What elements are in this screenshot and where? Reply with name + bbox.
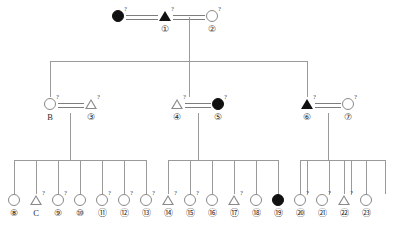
sib-drop-20 [300, 160, 301, 194]
sib-drop-19 [278, 160, 279, 194]
symbol-open-circle-icon [206, 10, 218, 22]
symbol-open-triangle-icon [338, 195, 350, 205]
symbol-open-circle-icon [342, 98, 354, 110]
sib-drop-14 [168, 160, 169, 194]
individual-label: ⑤ [202, 112, 234, 122]
symbol-open-circle-icon [316, 194, 328, 206]
superscript-marker: ? [183, 94, 186, 101]
sibship-descent-middle [198, 113, 199, 160]
individual-label: ④ [161, 112, 193, 122]
sib-drop-13 [146, 160, 147, 194]
symbol-open-triangle-icon [162, 195, 174, 205]
individual-label: ② [196, 24, 228, 34]
symbol-open-circle-icon [118, 194, 130, 206]
sibship-descent-right [328, 113, 329, 160]
symbol-filled-circle-icon [212, 98, 224, 110]
symbol-open-circle-icon [44, 98, 56, 110]
superscript-marker: ? [350, 190, 353, 197]
symbol-open-circle-icon [184, 194, 196, 206]
sibship-bar-middle [168, 160, 278, 161]
symbol-open-triangle-icon [171, 99, 183, 109]
superscript-marker: ? [306, 190, 309, 197]
symbol-open-circle-icon [52, 194, 64, 206]
drop-line-gen2-right [307, 61, 308, 97]
superscript-marker: ? [124, 6, 127, 13]
symbol-open-circle-icon [140, 194, 152, 206]
gen2-distribution-bar [50, 61, 308, 62]
symbol-open-circle-icon [294, 194, 306, 206]
individual-label: ⑦ [332, 112, 364, 122]
drop-line-gen2-middle [189, 61, 190, 97]
sib-drop-8 [14, 160, 15, 194]
superscript-marker: ? [328, 190, 331, 197]
symbol-open-circle-icon [360, 194, 372, 206]
sibship-bar-right [300, 160, 385, 161]
individual-label: ⑥ [291, 112, 323, 122]
superscript-marker: ? [108, 190, 111, 197]
mating-line-gen1-left [126, 15, 158, 20]
superscript-marker: ? [224, 94, 227, 101]
sib-drop-18 [256, 160, 257, 194]
sib-drop-C [36, 160, 37, 194]
sib-drop-26 [385, 160, 386, 194]
symbol-open-circle-icon [96, 194, 108, 206]
symbol-open-triangle-icon [85, 99, 97, 109]
sib-drop-17 [234, 160, 235, 194]
sib-drop-16 [212, 160, 213, 194]
individual-label: ① [149, 24, 181, 34]
symbol-filled-circle-icon [112, 10, 124, 22]
superscript-marker: ? [313, 94, 316, 101]
mating-line-gen2-left [58, 103, 84, 108]
symbol-filled-triangle-icon [301, 99, 313, 109]
individual-label: ㉓ [350, 208, 382, 218]
superscript-marker: ? [174, 190, 177, 197]
individual-label: ③ [75, 112, 107, 122]
pedigree-chart: ? ? ① ? ② ? B ? ③ ? ④ ? [0, 0, 399, 230]
mating-line-gen2-middle [185, 103, 211, 108]
superscript-marker: ? [97, 94, 100, 101]
superscript-marker: ? [218, 6, 221, 13]
symbol-open-triangle-icon [30, 195, 42, 205]
symbol-filled-circle-icon [272, 194, 284, 206]
sib-drop-9 [58, 160, 59, 194]
superscript-marker: ? [130, 190, 133, 197]
symbol-open-circle-icon [206, 194, 218, 206]
sib-drop-15 [190, 160, 191, 194]
drop-line-gen2-left [50, 61, 51, 97]
symbol-open-circle-icon [250, 194, 262, 206]
symbol-filled-triangle-icon [159, 11, 171, 21]
individual-label: B [34, 112, 66, 122]
superscript-marker: ? [42, 190, 45, 197]
descent-line-gen1 [189, 17, 190, 61]
sib-drop-12 [124, 160, 125, 194]
sib-drop-10 [80, 160, 81, 194]
superscript-marker: ? [152, 190, 155, 197]
superscript-marker: ? [354, 94, 357, 101]
superscript-marker: ? [56, 94, 59, 101]
superscript-marker: ? [196, 190, 199, 197]
superscript-marker: ? [240, 190, 243, 197]
mating-line-gen2-right [315, 103, 341, 108]
sib-drop-23 [344, 160, 345, 194]
sib-drop-11 [102, 160, 103, 194]
symbol-open-circle-icon [74, 194, 86, 206]
sib-drop-25 [366, 160, 367, 194]
symbol-open-triangle-icon [228, 195, 240, 205]
superscript-marker: ? [171, 6, 174, 13]
sibship-descent-left [70, 113, 71, 160]
superscript-marker: ? [64, 190, 67, 197]
symbol-open-circle-icon [8, 194, 20, 206]
